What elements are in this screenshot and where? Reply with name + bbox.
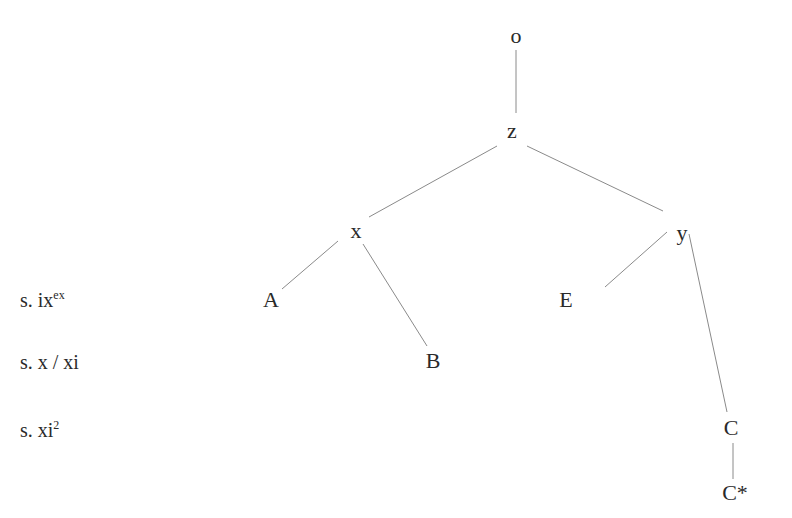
node-A: A bbox=[263, 289, 279, 311]
row-label-xi-2: s. xi2 bbox=[20, 420, 59, 440]
edge-z-x bbox=[369, 146, 497, 217]
edge-x-A bbox=[282, 241, 338, 289]
node-y: y bbox=[677, 222, 688, 244]
row-label-x-xi: s. x / xi bbox=[20, 352, 79, 372]
edge-x-B bbox=[363, 244, 427, 346]
node-E: E bbox=[559, 289, 572, 311]
node-B: B bbox=[426, 350, 441, 372]
row-label-ix-ex: s. ixex bbox=[20, 290, 65, 310]
edge-y-C bbox=[689, 234, 727, 412]
node-o: o bbox=[511, 25, 522, 47]
node-C: C bbox=[724, 417, 739, 439]
node-z: z bbox=[507, 120, 517, 142]
tree-diagram: ozxyAEBCC* s. ixex s. x / xi s. xi2 bbox=[0, 0, 792, 518]
edge-z-y bbox=[527, 146, 663, 211]
tree-edges bbox=[0, 0, 792, 518]
node-Cstar: C* bbox=[722, 482, 748, 504]
node-x: x bbox=[351, 220, 362, 242]
edge-y-E bbox=[605, 232, 667, 287]
